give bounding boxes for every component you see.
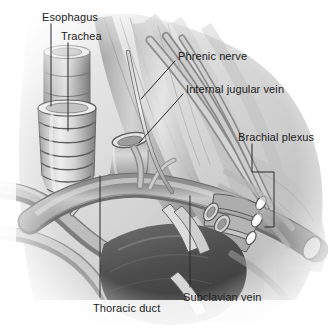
edge-vignette — [0, 0, 328, 331]
label-phrenic-nerve: Phrenic nerve — [178, 50, 247, 63]
left-fade — [0, 0, 16, 331]
label-brachial-plexus: Brachial plexus — [238, 131, 314, 144]
bottom-fade — [0, 300, 328, 331]
label-subclavian-vein: Subclavian vein — [183, 291, 262, 304]
label-internal-jugular-vein: Internal jugular vein — [186, 83, 284, 96]
label-trachea: Trachea — [61, 30, 102, 43]
label-thoracic-duct: Thoracic duct — [93, 302, 160, 315]
anatomy-figure: Esophagus Trachea Phrenic nerve Internal… — [0, 0, 328, 331]
anatomy-illustration-canvas — [0, 0, 328, 331]
label-esophagus: Esophagus — [42, 11, 98, 24]
